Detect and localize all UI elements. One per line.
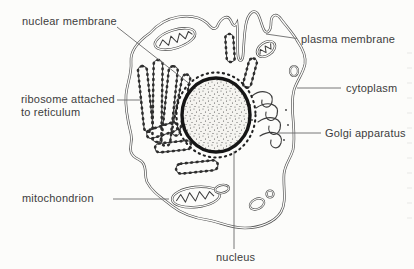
label-ribosome-line1: ribosome attached	[21, 93, 115, 106]
label-plasma-membrane: plasma membrane	[301, 33, 395, 46]
label-nucleus: nucleus	[216, 251, 255, 264]
label-ribosome-line2: to reticulum	[21, 106, 115, 119]
label-nuclear-membrane: nuclear membrane	[22, 15, 117, 28]
label-cytoplasm: cytoplasm	[346, 82, 397, 95]
label-golgi-apparatus: Golgi apparatus	[325, 127, 406, 140]
label-ribosome-attached-to-reticulum: ribosome attached to reticulum	[21, 93, 115, 119]
cell-diagram-figure: nuclear membrane plasma membrane ribosom…	[0, 0, 414, 269]
page-edge-scan-artifact	[407, 52, 412, 224]
label-mitochondrion: mitochondrion	[22, 192, 94, 205]
